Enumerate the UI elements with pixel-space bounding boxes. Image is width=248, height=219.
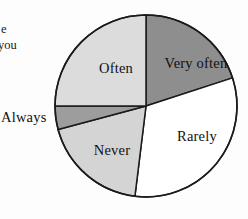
- pie-slice-label-very-often: Very often: [165, 55, 228, 72]
- pie-slice-group: [55, 15, 237, 197]
- pie-slice-label-never: Never: [94, 142, 130, 159]
- pie-slice-label-always: Always: [1, 109, 47, 126]
- pie-slice-label-often: Often: [99, 60, 133, 77]
- pie-chart-figure: e you Very often Rarely Never Often Alwa…: [0, 0, 248, 219]
- pie-slice-label-rarely: Rarely: [177, 128, 217, 145]
